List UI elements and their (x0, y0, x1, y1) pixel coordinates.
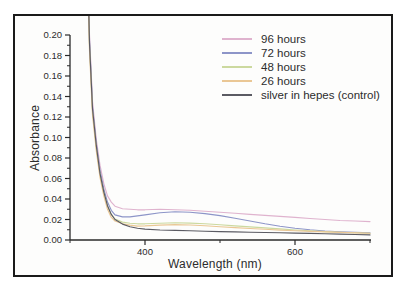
legend-label: 72 hours (261, 47, 306, 59)
y-tick-label: 0.06 (44, 173, 63, 184)
legend-label: silver in hepes (control) (261, 89, 380, 101)
legend-line-swatch (222, 52, 252, 54)
legend-item: 96 hours (222, 32, 380, 46)
x-axis-title: Wavelength (nm) (120, 257, 310, 271)
legend-label: 48 hours (261, 61, 306, 73)
y-tick-label: 0.10 (44, 132, 63, 143)
y-tick-label: 0.04 (44, 193, 63, 204)
y-tick-label: 0.16 (44, 70, 63, 81)
legend-line-swatch (222, 38, 252, 40)
y-tick-label: 0.14 (44, 91, 63, 102)
x-tick-label: 600 (287, 246, 303, 257)
y-tick-label: 0.00 (44, 234, 63, 245)
legend: 96 hours 72 hours 48 hours 26 hours silv… (222, 32, 380, 102)
legend-item: 48 hours (222, 60, 380, 74)
legend-item: silver in hepes (control) (222, 88, 380, 102)
y-tick-label: 0.20 (44, 29, 63, 40)
figure-canvas: 0.000.020.040.060.080.100.120.140.160.18… (0, 0, 403, 289)
legend-label: 26 hours (261, 75, 306, 87)
y-tick-label: 0.02 (44, 214, 63, 225)
y-tick-label: 0.12 (44, 111, 63, 122)
legend-item: 72 hours (222, 46, 380, 60)
legend-label: 96 hours (261, 33, 306, 45)
legend-line-swatch (222, 80, 252, 82)
legend-item: 26 hours (222, 74, 380, 88)
legend-line-swatch (222, 66, 252, 68)
y-axis-title: Absorbance (28, 83, 42, 193)
y-tick-label: 0.18 (44, 50, 63, 61)
y-tick-label: 0.08 (44, 152, 63, 163)
legend-line-swatch (222, 94, 252, 96)
x-tick-label: 400 (137, 246, 153, 257)
